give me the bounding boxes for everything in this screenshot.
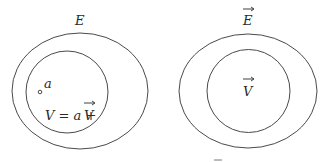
- point-a-marker: [38, 90, 42, 94]
- vector-subspace-label: V: [243, 84, 254, 99]
- affine-space-label: E: [74, 13, 85, 28]
- vector-space-label: E: [242, 13, 253, 28]
- affine-space-diagram: E a V = a + V: [12, 13, 148, 149]
- vector-arrow-icon: [243, 77, 254, 81]
- vector-space-diagram: E V: [179, 7, 317, 160]
- vector-arrow-icon: [84, 101, 95, 105]
- vector-arrow-icon: [243, 7, 254, 11]
- subspace-equation-vector: V: [84, 108, 95, 123]
- affine-space-ellipse: [12, 33, 148, 149]
- point-a-label: a: [44, 76, 52, 91]
- affine-vector-space-diagram: E a V = a + V E V: [0, 0, 326, 162]
